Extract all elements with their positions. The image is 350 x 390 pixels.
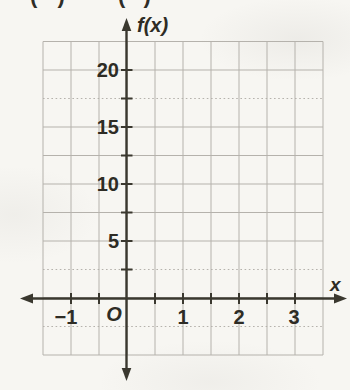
x-tick-label-2: 2 [217,306,261,328]
x-tick-label-neg1: −1 [44,306,88,328]
y-tick-label-20: 20 [83,59,119,81]
y-axis-title: f(x) [137,14,168,37]
y-axis-arrowhead-top [122,18,132,31]
x-axis [27,293,341,304]
y-tick-label-15: 15 [83,116,119,138]
graph-figure: ( ) ( ) f(x) x 20 15 10 5 −1 O 1 2 3 [0,0,350,390]
origin-label: O [92,303,136,325]
y-axis-arrowhead-bottom [122,368,132,381]
x-tick-label-3: 3 [272,306,316,328]
coordinate-plane [0,0,350,390]
x-tick-label-1: 1 [161,306,205,328]
y-tick-label-5: 5 [83,230,119,252]
y-tick-label-10: 10 [83,173,119,195]
x-axis-title: x [330,274,341,296]
x-axis-arrowhead-left [20,294,33,304]
